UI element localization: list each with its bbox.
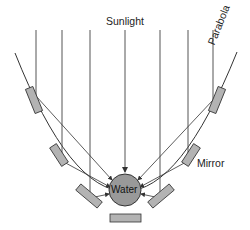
mirror-left-mid	[50, 144, 69, 167]
sunlight-rays	[36, 30, 213, 198]
sunlight-label: Sunlight	[106, 15, 144, 27]
mirror-right-top	[208, 86, 225, 113]
water-label: Water	[111, 184, 137, 195]
mirror-bottom	[110, 214, 141, 222]
mirror-label: Mirror	[197, 157, 224, 169]
parabola-curve	[15, 52, 237, 191]
